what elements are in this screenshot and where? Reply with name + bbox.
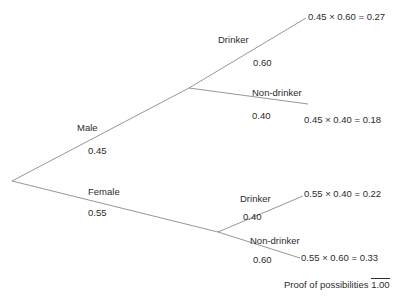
branch-label-female: Female xyxy=(88,187,120,197)
branch-male-to-drinker xyxy=(189,18,306,88)
branch-probability-female: 0.55 xyxy=(88,208,107,218)
branch-label-male-drinker: Drinker xyxy=(218,35,249,45)
branch-label-female-nondrinker: Non-drinker xyxy=(250,236,300,246)
total-value: 1.00 xyxy=(371,278,390,290)
branch-probability-female-drinker: 0.40 xyxy=(243,212,262,222)
branch-probability-male-drinker: 0.60 xyxy=(253,58,272,68)
outcome-male-drinker: 0.45 × 0.60 = 0.27 xyxy=(308,12,385,22)
branch-label-male: Male xyxy=(77,123,98,133)
branch-label-female-drinker: Drinker xyxy=(240,194,271,204)
total-proof-line: Proof of possibilities 1.00 xyxy=(284,278,390,290)
branch-probability-male-nondrinker: 0.40 xyxy=(252,111,271,121)
branch-root-to-male xyxy=(12,88,189,181)
probability-tree-diagram: Male 0.45 Female 0.55 Drinker 0.60 Non-d… xyxy=(0,0,407,301)
outcome-female-drinker: 0.55 × 0.40 = 0.22 xyxy=(304,189,381,199)
outcome-female-nondrinker: 0.55 × 0.60 = 0.33 xyxy=(301,253,378,263)
total-label: Proof of possibilities xyxy=(284,279,368,290)
outcome-male-nondrinker: 0.45 × 0.40 = 0.18 xyxy=(304,115,381,125)
branch-probability-female-nondrinker: 0.60 xyxy=(253,255,272,265)
branch-probability-male: 0.45 xyxy=(88,146,107,156)
branch-label-male-nondrinker: Non-drinker xyxy=(252,88,302,98)
